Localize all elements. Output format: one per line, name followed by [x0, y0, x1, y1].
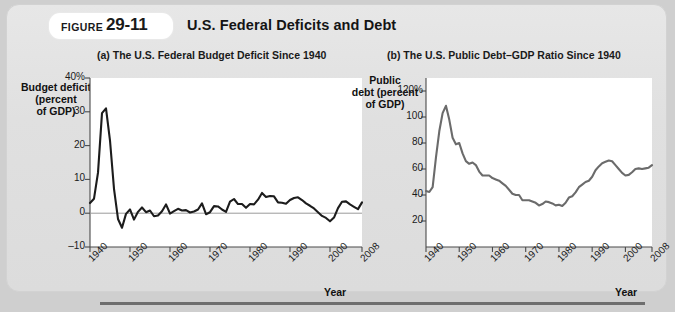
panel-a-x-axis-title: Year: [324, 286, 346, 298]
panel-b-x-axis-title: Year: [615, 286, 637, 298]
y-tick-label: 120%: [379, 84, 423, 95]
y-tick-label: 40%: [43, 71, 85, 82]
y-tick-label: 100: [379, 110, 423, 121]
y-tick-label: 30: [43, 105, 85, 116]
y-tick-label: 60: [379, 162, 423, 173]
y-tick-label: 10: [43, 172, 85, 183]
debt-line: [426, 106, 652, 206]
y-tick-label: 40: [379, 188, 423, 199]
y-tick-label: 20: [379, 214, 423, 225]
y-tick-label: 20: [43, 139, 85, 150]
bottom-rule: [100, 302, 645, 305]
y-tick-label: 0: [43, 206, 85, 217]
y-tick-label: 80: [379, 136, 423, 147]
figure-card: FIGURE 29-11 U.S. Federal Deficits and D…: [6, 4, 667, 292]
y-tick-label: –10: [43, 240, 85, 251]
panel-b-chart: [7, 5, 668, 255]
